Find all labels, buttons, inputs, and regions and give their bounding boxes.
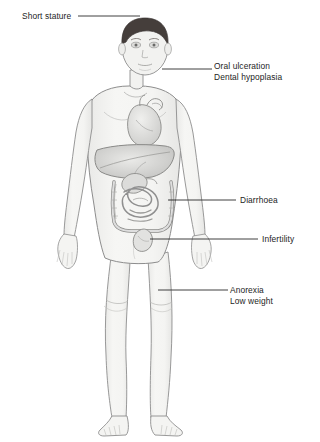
label-oral-ulceration-line1: Oral ulceration (214, 61, 282, 72)
right-leg (148, 252, 172, 418)
label-infertility: Infertility (262, 234, 294, 245)
label-diarrhoea: Diarrhoea (240, 195, 278, 206)
label-anorexia-line1: Anorexia (230, 285, 273, 296)
label-oral-ulceration: Oral ulceration Dental hypoplasia (214, 61, 282, 83)
left-ear (119, 43, 126, 55)
right-arm (176, 99, 205, 238)
left-leg (105, 250, 130, 418)
label-infertility-line1: Infertility (262, 234, 294, 245)
label-diarrhoea-line1: Diarrhoea (240, 195, 278, 206)
left-arm (64, 99, 92, 238)
label-anorexia: Anorexia Low weight (230, 285, 273, 307)
left-foot (99, 416, 129, 436)
label-short-stature-line1: Short stature (22, 11, 71, 22)
organ-bladder (133, 229, 152, 251)
label-oral-ulceration-line2: Dental hypoplasia (214, 72, 282, 83)
right-foot (151, 416, 183, 436)
body-figure (57, 18, 212, 436)
right-ear (165, 43, 172, 55)
label-anorexia-line2: Low weight (230, 296, 273, 307)
left-hand (58, 234, 78, 269)
label-short-stature: Short stature (22, 11, 71, 22)
